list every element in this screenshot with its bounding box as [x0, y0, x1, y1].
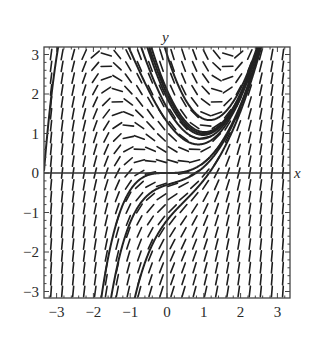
slope-segment — [271, 180, 272, 190]
slope-segment — [215, 239, 218, 249]
slope-segment — [193, 50, 197, 60]
slope-segment — [223, 76, 233, 79]
slope-segment — [216, 275, 218, 285]
slope-segment — [260, 85, 262, 95]
slope-segment — [171, 263, 175, 273]
slope-segment — [170, 85, 174, 94]
slope-segment — [73, 215, 74, 225]
slope-segment — [116, 204, 119, 214]
slope-segment — [271, 132, 272, 142]
slope-segment — [73, 274, 74, 284]
slope-segment — [62, 251, 63, 261]
slope-segment — [282, 49, 283, 59]
slope-segment — [249, 251, 250, 261]
slope-segment — [73, 227, 74, 237]
slope-segment — [73, 203, 74, 213]
slope-segment — [215, 192, 219, 202]
slope-segment — [271, 156, 272, 166]
slope-segment — [61, 97, 63, 107]
slope-segment — [182, 275, 185, 285]
slope-segment — [158, 205, 165, 212]
slope-segment — [113, 123, 122, 129]
slope-segment — [103, 110, 109, 118]
slope-segment — [248, 97, 251, 107]
slope-segment — [62, 215, 63, 225]
slope-segment — [137, 239, 141, 249]
slope-segment — [213, 50, 219, 58]
slope-segment — [83, 192, 85, 202]
slope-segment — [171, 50, 174, 60]
slope-segment — [249, 215, 251, 225]
slope-segment — [182, 73, 186, 83]
slope-segment — [94, 156, 97, 166]
slope-segment — [260, 73, 262, 83]
slope-segment — [105, 227, 107, 237]
slope-segment — [282, 227, 283, 237]
slope-segment — [193, 286, 196, 296]
slope-segment — [249, 192, 251, 202]
slope-segment — [178, 161, 188, 162]
slope-segment — [136, 98, 142, 106]
slope-segment — [226, 192, 229, 202]
slope-segment — [271, 203, 272, 213]
slope-segment — [158, 134, 166, 141]
slope-segment — [201, 147, 210, 152]
slope-segment — [271, 49, 273, 59]
slope-segment — [213, 63, 221, 70]
x-tick-label: −1 — [122, 304, 138, 320]
slope-segment — [114, 63, 122, 70]
axes — [44, 47, 290, 298]
slope-segment — [102, 87, 111, 93]
slope-segment — [94, 203, 96, 213]
slope-segment — [50, 73, 51, 83]
slope-segment — [238, 239, 240, 249]
slope-segment — [282, 192, 283, 202]
slope-segment — [126, 204, 130, 213]
slope-segment — [282, 73, 283, 83]
slope-segment — [84, 263, 85, 273]
slope-segment — [127, 275, 129, 285]
slope-segment — [50, 61, 51, 71]
slope-field-chart: −3−2−10123−3−2−10123 x y — [0, 0, 318, 337]
slope-segment — [51, 286, 52, 296]
slope-segment — [146, 134, 154, 140]
x-tick-label: 3 — [274, 304, 282, 320]
slope-segment — [238, 275, 239, 285]
slope-segment — [116, 239, 119, 249]
slope-segment — [83, 109, 86, 119]
slope-segment — [249, 239, 250, 249]
slope-segment — [105, 180, 108, 190]
slope-segment — [282, 97, 283, 107]
slope-segment — [92, 74, 98, 83]
slope-segment — [83, 85, 86, 95]
slope-segment — [260, 215, 261, 225]
slope-segment — [160, 263, 164, 273]
slope-segment — [115, 180, 119, 190]
slope-segment — [204, 239, 207, 249]
slope-segment — [149, 287, 152, 297]
slope-segment — [192, 228, 196, 237]
slope-segment — [160, 287, 163, 297]
slope-segment — [51, 192, 52, 202]
slope-segment — [227, 286, 229, 296]
slope-segment — [93, 85, 98, 94]
slope-segment — [160, 61, 163, 71]
slope-segment — [170, 228, 175, 237]
slope-segment — [83, 97, 86, 107]
slope-segment — [94, 144, 97, 154]
slope-segment — [51, 132, 52, 142]
slope-segment — [192, 74, 197, 83]
slope-segment — [191, 98, 197, 106]
slope-segment — [249, 263, 250, 273]
slope-segment — [94, 251, 96, 261]
slope-segment — [171, 275, 174, 285]
slope-segment — [82, 73, 85, 83]
slope-segment — [91, 51, 99, 58]
slope-segment — [94, 192, 96, 202]
slope-segment — [271, 251, 272, 261]
slope-segment — [147, 205, 154, 213]
slope-segment — [212, 112, 222, 115]
slope-segment — [216, 286, 218, 296]
slope-segment — [72, 180, 73, 190]
slope-segment — [260, 203, 261, 213]
